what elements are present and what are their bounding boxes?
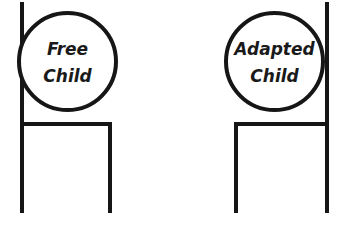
ego-state-label-adapted-child-line2: Child [250, 66, 299, 86]
ego-state-label-free-child-line1: Free [47, 39, 88, 59]
ego-state-label-adapted-child-line1: Adapted [232, 39, 315, 59]
ego-state-circle-free-child [19, 13, 116, 110]
ego-state-diagram: Free Child Adapted Child [0, 0, 344, 235]
ego-state-group-adapted-child: Adapted Child [226, 2, 329, 213]
ego-state-circle-adapted-child [226, 13, 323, 110]
ego-state-label-free-child-line2: Child [43, 66, 92, 86]
diagram-canvas: Free Child Adapted Child [0, 0, 344, 235]
ego-state-group-free-child: Free Child [19, 2, 116, 213]
